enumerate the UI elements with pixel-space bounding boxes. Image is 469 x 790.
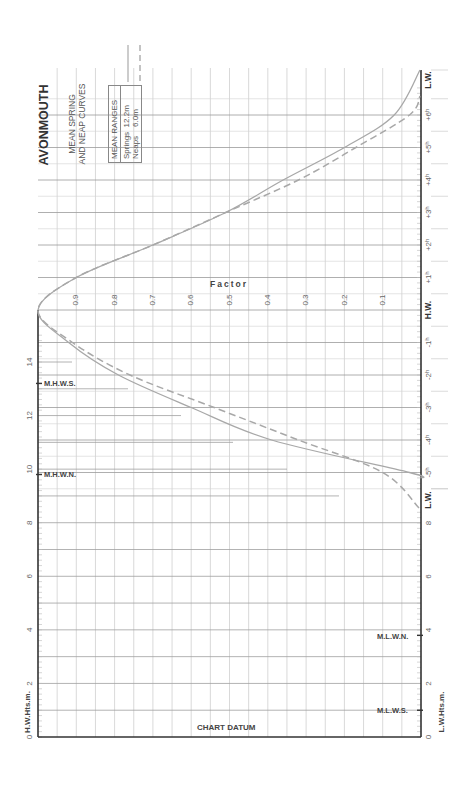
hour-label: -4ʰ: [424, 435, 433, 445]
hour-label: +5ʰ: [424, 141, 433, 153]
legend-springs-row: Springs 12.2m: [122, 89, 131, 159]
hour-label: -3ʰ: [424, 402, 433, 412]
hw-height-tick-label: 0: [25, 734, 34, 739]
chart-subtitle-2: AND NEAP CURVES: [77, 84, 87, 165]
hw-height-tick-label: 14: [25, 357, 34, 366]
hour-label: -1ʰ: [424, 337, 433, 347]
lw-height-tick-label: 4: [424, 627, 433, 632]
hour-label: -2ʰ: [424, 370, 433, 380]
lw-height-tick-label: 0: [424, 734, 433, 739]
legend-neaps-label: Neaps: [131, 136, 140, 159]
factor-tick-label: 0.9: [71, 294, 80, 306]
lw-height-tick-label: 6: [424, 574, 433, 579]
legend-box: MEAN RANGES Springs 12.2m Neaps 6.0m: [108, 85, 142, 163]
factor-tick-label: 0.8: [110, 294, 119, 306]
hour-label: +1ʰ: [424, 271, 433, 283]
factor-tick-label: 0.7: [148, 294, 157, 306]
chart-title: AVONMOUTH: [37, 84, 51, 165]
factor-tick-label: 0.5: [225, 294, 234, 306]
factor-tick-label: 0.1: [378, 294, 387, 306]
mhws-marker: M.H.W.S.: [44, 379, 76, 388]
legend-neaps-row: Neaps 6.0m: [131, 89, 140, 159]
hw-height-tick-label: 8: [25, 520, 34, 525]
lw-height-tick-label: 2: [424, 681, 433, 686]
mlws-marker: M.L.W.S.: [377, 706, 408, 715]
hw-height-tick-label: 6: [25, 574, 34, 579]
chart-subtitle-1: MEAN SPRING: [67, 94, 77, 154]
hw-height-tick-label: 4: [25, 627, 34, 632]
hour-label: -5ʰ: [424, 467, 433, 477]
factor-tick-label: 0.3: [301, 294, 310, 306]
hw-height-tick-label: 12: [25, 411, 34, 420]
hour-label: +3ʰ: [424, 206, 433, 218]
legend-neaps-value: 6.0m: [131, 109, 140, 127]
lw-heights-label: L.W.Hts.m.: [437, 692, 446, 733]
legend-springs-value: 12.2m: [122, 105, 131, 127]
hour-label: +2ʰ: [424, 239, 433, 251]
hw-label: H.W.: [423, 301, 433, 319]
mhwn-marker: M.H.W.N.: [44, 470, 76, 479]
hw-height-tick-label: 2: [25, 681, 34, 686]
legend-springs-label: Springs: [122, 132, 131, 159]
hw-height-tick-label: 10: [25, 464, 34, 473]
lw-height-tick-label: 8: [424, 520, 433, 525]
factor-axis-label: Factor: [210, 279, 248, 289]
mlwn-marker: M.L.W.N.: [377, 632, 408, 641]
hour-label: +6ʰ: [424, 109, 433, 121]
factor-tick-label: 0.6: [186, 294, 195, 306]
factor-tick-label: 0.2: [340, 294, 349, 306]
hw-heights-label: H.W.Hts.m.: [23, 691, 32, 733]
chart-datum-label: CHART DATUM: [197, 723, 256, 732]
lw-bottom-label: L.W.: [423, 491, 433, 508]
hour-label: +4ʰ: [424, 174, 433, 186]
lw-top-label: L.W.: [423, 71, 433, 88]
legend-heading: MEAN RANGES: [109, 86, 121, 162]
factor-tick-label: 0.4: [263, 294, 272, 306]
